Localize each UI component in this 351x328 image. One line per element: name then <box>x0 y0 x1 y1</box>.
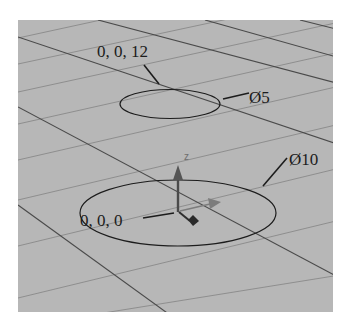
lower-diameter-label: Ø10 <box>289 150 318 169</box>
z-axis-label: z <box>184 151 189 162</box>
lower-position-label: 0, 0, 0 <box>80 211 123 230</box>
axis-gizmo[interactable]: z <box>173 151 221 226</box>
upper-position-label: 0, 0, 12 <box>97 42 148 61</box>
scene-svg: 0, 0, 12 Ø5 0, 0, 0 Ø10 z <box>0 0 351 328</box>
leader-lower-position <box>143 213 174 218</box>
leader-upper-position <box>144 65 159 84</box>
cad-figure: 0, 0, 12 Ø5 0, 0, 0 Ø10 z <box>0 0 351 328</box>
circle-upper[interactable] <box>120 90 220 119</box>
z-arrow-icon <box>173 165 183 180</box>
x-arrow-icon <box>208 198 221 209</box>
y-arrow-icon <box>188 215 199 226</box>
upper-diameter-label: Ø5 <box>249 88 270 107</box>
leader-upper-diameter <box>223 93 249 99</box>
x-axis <box>180 204 210 211</box>
